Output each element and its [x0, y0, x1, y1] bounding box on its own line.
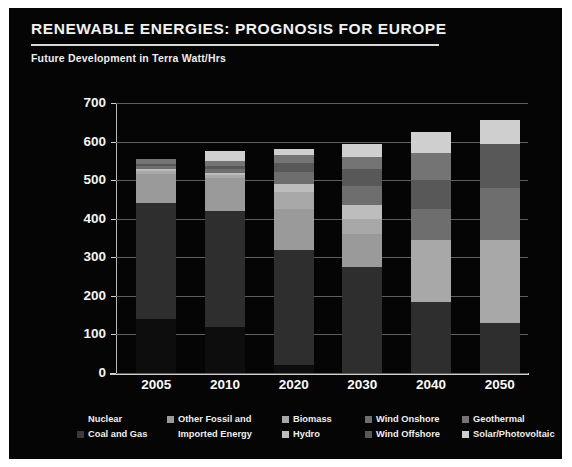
bar-segment-hydro	[274, 184, 314, 192]
infographic-panel: RENEWABLE ENERGIES: PROGNOSIS FOR EUROPE…	[9, 8, 562, 459]
bar-segment-wind-onshore	[480, 188, 520, 240]
bar-segment-nuclear	[205, 327, 245, 373]
y-tick-mark-500	[111, 180, 116, 181]
bar-segment-coal-and-gas	[480, 323, 520, 373]
y-tick-mark-200	[111, 296, 116, 297]
bar-segment-other-fossil-and-imported-energy	[205, 178, 245, 211]
legend-swatch-icon	[365, 431, 372, 438]
y-axis-tick-label: 400	[62, 211, 106, 226]
y-axis-tick-label: 300	[62, 249, 106, 264]
y-axis-tick-label: 500	[62, 172, 106, 187]
legend-swatch-icon	[77, 416, 84, 423]
bar-segment-solar-photovoltaic	[480, 120, 520, 143]
title-underline	[31, 44, 439, 46]
legend-label: Coal and Gas	[88, 430, 147, 439]
gridline-0	[116, 373, 528, 374]
y-axis-tick-label: 0	[62, 365, 106, 380]
legend-item[interactable]: Solar/Photovoltaic	[462, 427, 555, 442]
bar-segment-solar-photovoltaic	[205, 151, 245, 161]
legend-swatch-icon	[462, 416, 469, 423]
legend-swatch-icon	[282, 431, 289, 438]
bar-segment-wind-offshore	[274, 163, 314, 173]
bar-segment-wind-offshore	[480, 144, 520, 188]
legend-item[interactable]: Nuclear	[77, 412, 147, 427]
legend-swatch-icon	[462, 431, 469, 438]
legend-swatch-icon	[167, 431, 174, 438]
y-axis-tick-label: 200	[62, 288, 106, 303]
bar-segment-biomass	[342, 219, 382, 234]
y-tick-mark-0	[111, 373, 116, 374]
bar-2020[interactable]	[274, 149, 314, 373]
legend-swatch-icon	[365, 416, 372, 423]
bar-segment-biomass	[480, 240, 520, 323]
legend-swatch-icon	[282, 416, 289, 423]
legend-column-4: Wind OnshoreWind Offshore	[365, 412, 440, 442]
x-axis-label-2020: 2020	[260, 377, 328, 392]
x-axis-label-2050: 2050	[466, 377, 534, 392]
bar-segment-nuclear	[274, 365, 314, 373]
bar-2005[interactable]	[136, 159, 176, 373]
legend-item[interactable]: Biomass	[282, 412, 332, 427]
bar-segment-wind-offshore	[342, 169, 382, 186]
bar-segment-geothermal	[274, 155, 314, 163]
bar-segment-coal-and-gas	[136, 203, 176, 319]
y-axis-tick-label: 600	[62, 134, 106, 149]
x-axis-label-2005: 2005	[122, 377, 190, 392]
legend-item[interactable]: Coal and Gas	[77, 427, 147, 442]
legend-item[interactable]: Geothermal	[462, 412, 555, 427]
page-title: RENEWABLE ENERGIES: PROGNOSIS FOR EUROPE	[31, 20, 451, 38]
x-axis-label-2030: 2030	[328, 377, 396, 392]
legend-label: Wind Offshore	[376, 430, 440, 439]
page-subtitle: Future Development in Terra Watt/Hrs	[31, 52, 226, 64]
legend-column-3: BiomassHydro	[282, 412, 332, 442]
y-tick-mark-300	[111, 257, 116, 258]
legend-label: Solar/Photovoltaic	[473, 430, 555, 439]
legend-item[interactable]: Wind Onshore	[365, 412, 440, 427]
y-tick-mark-400	[111, 219, 116, 220]
gridline-400	[116, 219, 528, 220]
legend-item[interactable]: Wind Offshore	[365, 427, 440, 442]
legend-column-5: GeothermalSolar/Photovoltaic	[462, 412, 555, 442]
legend-swatch-icon	[167, 416, 174, 423]
legend-item[interactable]: Hydro	[282, 427, 332, 442]
legend-label: Other Fossil and	[178, 415, 251, 424]
legend-item[interactable]: Imported Energy	[167, 427, 252, 442]
y-axis-line	[116, 103, 117, 374]
gridline-100	[116, 334, 528, 335]
bar-segment-wind-offshore	[411, 180, 451, 209]
bar-2050[interactable]	[480, 120, 520, 373]
y-tick-mark-600	[111, 142, 116, 143]
bar-2040[interactable]	[411, 132, 451, 373]
bar-segment-geothermal	[411, 153, 451, 180]
bar-2030[interactable]	[342, 144, 382, 373]
bar-segment-other-fossil-and-imported-energy	[342, 234, 382, 267]
bar-segment-other-fossil-and-imported-energy	[274, 209, 314, 250]
y-axis-tick-label: 100	[62, 326, 106, 341]
legend-label: Imported Energy	[178, 430, 252, 439]
bar-segment-coal-and-gas	[342, 267, 382, 373]
legend-swatch-icon	[77, 431, 84, 438]
bar-segment-solar-photovoltaic	[342, 144, 382, 158]
bar-segment-wind-onshore	[342, 186, 382, 205]
legend-label: Nuclear	[88, 415, 122, 424]
bar-segment-nuclear	[136, 319, 176, 373]
legend-label: Wind Onshore	[376, 415, 439, 424]
gridline-700	[116, 103, 528, 104]
x-axis-label-2040: 2040	[397, 377, 465, 392]
legend-column-1: NuclearCoal and Gas	[77, 412, 147, 442]
bar-segment-biomass	[411, 240, 451, 302]
bar-segment-hydro	[342, 205, 382, 219]
y-tick-mark-700	[111, 103, 116, 104]
gridline-600	[116, 142, 528, 143]
bar-segment-biomass	[274, 192, 314, 209]
legend-label: Biomass	[293, 415, 332, 424]
bar-segment-solar-photovoltaic	[411, 132, 451, 153]
bar-2010[interactable]	[205, 151, 245, 373]
gridline-500	[116, 180, 528, 181]
bar-chart-plot-area: 7006005004003002001000 20052010202020302…	[116, 103, 528, 373]
legend-item[interactable]: Other Fossil and	[167, 412, 252, 427]
bar-segment-coal-and-gas	[274, 250, 314, 366]
legend-label: Hydro	[293, 430, 320, 439]
y-tick-mark-100	[111, 334, 116, 335]
bar-segment-geothermal	[342, 157, 382, 169]
